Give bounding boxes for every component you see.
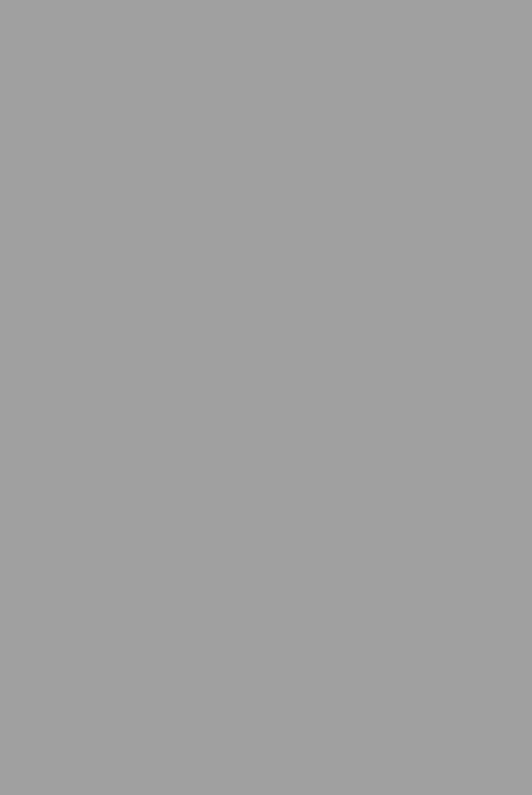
texture-surface [0, 0, 532, 795]
tiled-noise-canvas [0, 0, 532, 795]
